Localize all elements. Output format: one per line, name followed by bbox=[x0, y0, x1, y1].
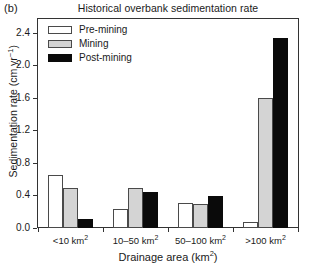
x-tick-mark bbox=[233, 228, 234, 232]
y-tick-label: 2.0 bbox=[16, 59, 30, 71]
legend-label: Post-mining bbox=[79, 51, 132, 64]
x-tick-mark bbox=[298, 228, 299, 232]
y-tick-mark bbox=[33, 65, 37, 66]
y-tick-mark bbox=[33, 98, 37, 99]
y-tick-label: 1.2 bbox=[16, 124, 30, 136]
bar-pre[interactable] bbox=[178, 203, 193, 228]
bar-mining[interactable] bbox=[63, 188, 78, 229]
bar-mining[interactable] bbox=[258, 98, 273, 228]
bar-pre[interactable] bbox=[48, 175, 63, 228]
y-tick-label: 0.4 bbox=[16, 189, 30, 201]
bar-mining[interactable] bbox=[128, 188, 143, 229]
x-category-label: 10–50 km2 bbox=[113, 232, 159, 247]
y-tick-mark bbox=[33, 228, 37, 229]
y-tick-label: 0.8 bbox=[16, 157, 30, 169]
y-tick-mark bbox=[33, 195, 37, 196]
bar-group bbox=[178, 19, 223, 228]
figure-panel: (b) Historical overbank sedimentation ra… bbox=[0, 0, 309, 265]
y-tick-label: 1.6 bbox=[16, 92, 30, 104]
bar-pre[interactable] bbox=[113, 209, 128, 228]
bar-post[interactable] bbox=[208, 196, 223, 228]
x-tick-mark bbox=[103, 228, 104, 232]
legend-label: Pre-mining bbox=[79, 23, 127, 36]
x-category-label: <10 km2 bbox=[53, 232, 88, 247]
bar-post[interactable] bbox=[78, 219, 93, 228]
y-tick-mark bbox=[33, 33, 37, 34]
y-tick-label: 0.0 bbox=[16, 222, 30, 234]
legend-swatch-pre bbox=[48, 26, 72, 34]
x-axis-title: Drainage area (km2) bbox=[37, 247, 299, 264]
y-tick-mark bbox=[33, 163, 37, 164]
chart-title: Historical overbank sedimentation rate bbox=[37, 2, 299, 14]
legend-item[interactable]: Pre-mining bbox=[48, 24, 168, 37]
y-tick-label: 2.4 bbox=[16, 27, 30, 39]
legend-swatch-mining bbox=[48, 40, 72, 48]
legend-swatch-post bbox=[48, 54, 72, 62]
legend-item[interactable]: Mining bbox=[48, 38, 168, 51]
x-tick-mark bbox=[168, 228, 169, 232]
x-category-label: 50–100 km2 bbox=[175, 232, 226, 247]
x-category-label: >100 km2 bbox=[245, 232, 286, 247]
bar-post[interactable] bbox=[273, 38, 288, 228]
y-tick-mark bbox=[33, 130, 37, 131]
bar-mining[interactable] bbox=[193, 204, 208, 228]
bar-post[interactable] bbox=[143, 192, 158, 228]
legend-item[interactable]: Post-mining bbox=[48, 52, 168, 65]
x-tick-mark bbox=[38, 228, 39, 232]
legend-label: Mining bbox=[79, 37, 108, 50]
chart-legend: Pre-miningMiningPost-mining bbox=[48, 24, 168, 66]
bar-group bbox=[243, 19, 288, 228]
bar-pre[interactable] bbox=[243, 222, 258, 228]
